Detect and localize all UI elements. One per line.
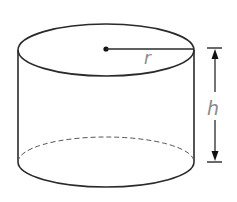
height-label: h (207, 97, 219, 119)
arrowhead-down-icon (212, 151, 219, 161)
cylinder-diagram: r h (0, 0, 237, 202)
arrowhead-up-icon (212, 49, 219, 59)
bottom-face-front (18, 162, 194, 187)
radius-label: r (144, 48, 152, 68)
bottom-face-back-hidden (18, 137, 194, 162)
